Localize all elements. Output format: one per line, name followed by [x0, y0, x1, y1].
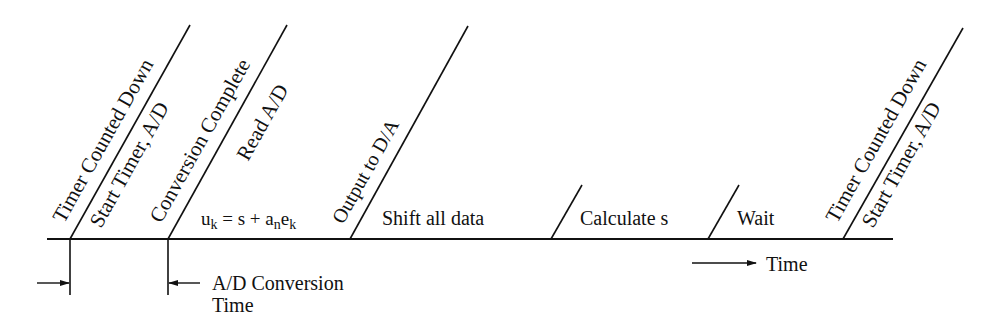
timing-diagram: Timer Counted Down Start Timer, A/D Conv… — [0, 0, 1000, 322]
segment-divider-wait — [708, 185, 739, 239]
label-read-ad: Read A/D — [231, 80, 293, 164]
label-wait: Wait — [737, 207, 775, 229]
label-calculate-s: Calculate s — [580, 207, 669, 229]
label-time-axis: Time — [766, 253, 808, 275]
label-shift-all-data: Shift all data — [382, 207, 484, 229]
label-ad-conversion: A/D Conversion — [212, 272, 344, 294]
event-line-timer-restart — [843, 28, 963, 239]
label-control-law: uk = s + anek — [201, 208, 296, 232]
segment-divider-calculate — [551, 185, 582, 239]
label-ad-conversion-time: Time — [212, 294, 254, 316]
